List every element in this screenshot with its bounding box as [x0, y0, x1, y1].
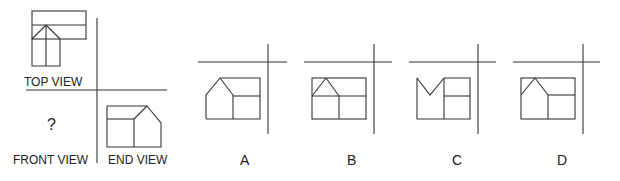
option-c-label[interactable]: C	[452, 153, 462, 167]
option-c-drawing[interactable]	[409, 44, 496, 134]
option-d-drawing[interactable]	[513, 44, 600, 134]
option-d-label[interactable]: D	[557, 153, 567, 167]
top-view-drawing	[32, 11, 86, 66]
option-a-drawing[interactable]	[198, 44, 287, 134]
orthographic-diagram	[0, 0, 620, 181]
option-b-label[interactable]: B	[347, 153, 356, 167]
top-view-label: TOP VIEW	[24, 76, 82, 88]
end-view-label: END VIEW	[108, 154, 167, 166]
option-b-drawing[interactable]	[304, 44, 392, 134]
option-a-label[interactable]: A	[240, 153, 249, 167]
unknown-front-view-marker: ?	[47, 117, 56, 133]
front-view-label: FRONT VIEW	[13, 154, 88, 166]
end-view-drawing	[107, 106, 161, 147]
